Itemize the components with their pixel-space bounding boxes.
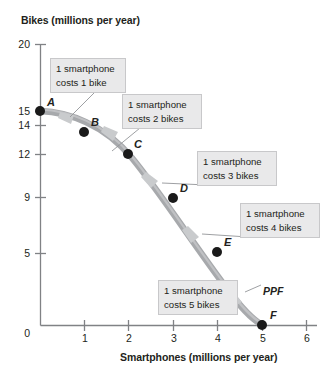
callout-line-2: costs 3 bikes xyxy=(203,169,271,183)
callout-cost-2-bikes: 1 smartphone costs 2 bikes xyxy=(122,94,202,129)
callout-line-1: 1 smartphone xyxy=(56,62,120,76)
x-tick-label-6: 6 xyxy=(296,332,318,344)
y-tick-label-20: 20 xyxy=(8,38,30,50)
callout-line-1: 1 smartphone xyxy=(203,155,271,169)
y-tick-label-14: 14 xyxy=(8,119,30,131)
point-label-f: F xyxy=(270,309,277,321)
point-label-c: C xyxy=(134,138,142,150)
data-point-d xyxy=(168,193,178,203)
data-point-c xyxy=(123,149,133,159)
callout-line-2: costs 4 bikes xyxy=(246,221,314,235)
ppf-curve-label: PPF xyxy=(263,285,283,297)
y-tick-label-5: 5 xyxy=(8,247,30,259)
x-tick-label-2: 2 xyxy=(118,332,140,344)
ppf-chart: Bikes (millions per year) xyxy=(0,0,331,373)
x-tick-label-5: 5 xyxy=(252,332,274,344)
callout-cost-4-bikes: 1 smartphone costs 4 bikes xyxy=(240,203,320,238)
data-point-f xyxy=(257,320,267,330)
tradeoff-arrows xyxy=(58,112,242,307)
plot-area xyxy=(0,0,331,373)
data-point-b xyxy=(79,127,89,137)
callout-line-1: 1 smartphone xyxy=(128,98,196,112)
origin-label: 0 xyxy=(8,327,30,339)
x-tick-label-4: 4 xyxy=(207,332,229,344)
point-label-e: E xyxy=(224,236,231,248)
callout-line-2: costs 1 bike xyxy=(56,76,120,90)
data-point-e xyxy=(212,247,222,257)
callout-cost-3-bikes: 1 smartphone costs 3 bikes xyxy=(197,151,277,186)
data-point-a xyxy=(35,106,45,116)
callout-line-1: 1 smartphone xyxy=(164,284,232,298)
point-label-b: B xyxy=(91,116,99,128)
callout-line-2: costs 2 bikes xyxy=(128,112,196,126)
x-tick-label-3: 3 xyxy=(163,332,185,344)
x-tick-label-1: 1 xyxy=(74,332,96,344)
callout-line-1: 1 smartphone xyxy=(246,207,314,221)
y-tick-label-9: 9 xyxy=(8,191,30,203)
y-tick-label-15: 15 xyxy=(8,105,30,117)
point-label-d: D xyxy=(180,182,188,194)
callout-cost-1-bike: 1 smartphone costs 1 bike xyxy=(50,58,126,93)
callout-line-2: costs 5 bikes xyxy=(164,298,232,312)
x-axis-title: Smartphones (millions per year) xyxy=(120,351,277,363)
y-tick-label-12: 12 xyxy=(8,148,30,160)
callout-cost-5-bikes: 1 smartphone costs 5 bikes xyxy=(158,280,238,315)
point-label-a: A xyxy=(47,96,55,108)
